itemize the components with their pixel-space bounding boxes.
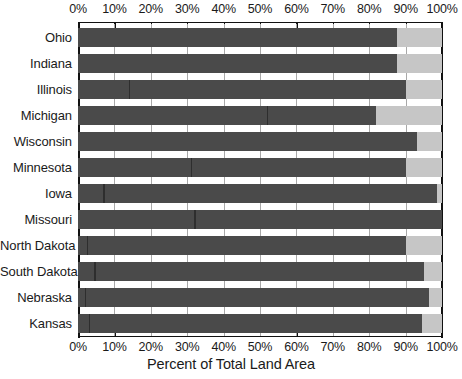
y-axis-label: Minnesota (0, 160, 72, 175)
x-tick-label: 70% (321, 2, 345, 16)
x-axis-title: Percent of Total Land Area (0, 356, 462, 372)
horizontal-bar-chart: 0%10%20%30%40%50%60%70%80%90%100% OhioIn… (0, 0, 462, 379)
y-axis-label: Nebraska (0, 290, 72, 305)
x-tick-label: 20% (139, 340, 163, 354)
y-axis-label: Ohio (0, 30, 72, 45)
x-tick-label: 90% (393, 340, 417, 354)
x-axis-ticks-bottom: 0%10%20%30%40%50%60%70%80%90%100% (0, 340, 462, 356)
x-tick-label: 100% (426, 2, 457, 16)
y-axis-label: Wisconsin (0, 134, 72, 149)
y-axis-label: South Dakota (0, 264, 72, 279)
y-axis-label: Michigan (0, 108, 72, 123)
y-axis-label: North Dakota (0, 238, 72, 253)
x-tick-label: 0% (69, 340, 87, 354)
x-tick-label: 40% (211, 340, 235, 354)
y-axis-label: Iowa (0, 186, 72, 201)
x-tick-label: 60% (284, 340, 308, 354)
x-tick-label: 40% (211, 2, 235, 16)
x-tick-label: 80% (357, 340, 381, 354)
x-tick-label: 30% (175, 340, 199, 354)
x-tick-label: 50% (248, 2, 272, 16)
x-tick-label: 20% (139, 2, 163, 16)
x-tick-label: 100% (426, 340, 457, 354)
y-axis-category-labels: OhioIndianaIllinoisMichiganWisconsinMinn… (0, 24, 462, 336)
y-axis-label: Indiana (0, 56, 72, 71)
y-axis-label: Kansas (0, 316, 72, 331)
x-tick-label: 60% (284, 2, 308, 16)
x-tick-label: 90% (393, 2, 417, 16)
x-axis-ticks-top: 0%10%20%30%40%50%60%70%80%90%100% (0, 2, 462, 18)
x-tick-label: 50% (248, 340, 272, 354)
x-tick-label: 10% (102, 2, 126, 16)
x-tick-label: 10% (102, 340, 126, 354)
x-tick-label: 70% (321, 340, 345, 354)
y-axis-label: Missouri (0, 212, 72, 227)
y-axis-label: Illinois (0, 82, 72, 97)
x-tick-label: 80% (357, 2, 381, 16)
x-tick-label: 30% (175, 2, 199, 16)
x-tick-label: 0% (69, 2, 87, 16)
